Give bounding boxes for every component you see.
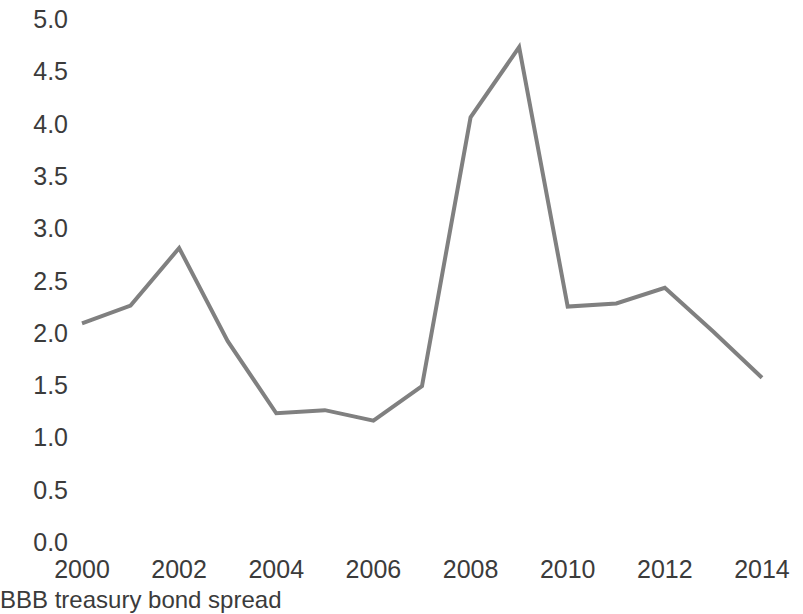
x-tick-label: 2012 (637, 555, 693, 583)
x-tick-label: 2002 (151, 555, 207, 583)
x-tick-label: 2010 (540, 555, 596, 583)
series-polyline (82, 47, 762, 420)
x-tick-label: 2000 (54, 555, 110, 583)
x-tick-label: 2014 (734, 555, 790, 583)
x-tick-label: 2006 (346, 555, 402, 583)
x-tick-label: 2008 (443, 555, 499, 583)
x-axis: 20002002200420062008201020122014 (0, 555, 803, 589)
x-tick-label: 2004 (248, 555, 304, 583)
chart-caption: BBB treasury bond spread (0, 586, 282, 614)
